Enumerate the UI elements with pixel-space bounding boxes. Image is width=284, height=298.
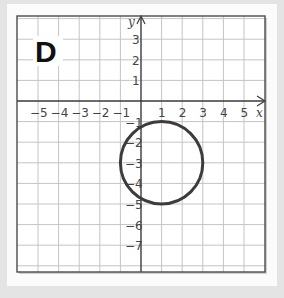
panel-label: D — [35, 35, 57, 68]
coordinate-graph: −5−4−3−2−112345 321−1−2−3−4−5−6−7 y x D — [0, 0, 284, 298]
x-tick-label: 5 — [241, 106, 249, 120]
y-tick-label: 1 — [132, 74, 140, 88]
x-tick-label: −2 — [92, 106, 110, 120]
x-tick-label: −4 — [51, 106, 69, 120]
x-tick-label: 4 — [220, 106, 228, 120]
x-axis-label: x — [256, 106, 263, 120]
y-tick-label: 3 — [132, 33, 140, 47]
y-tick-label: −3 — [125, 157, 143, 171]
y-axis-label: y — [127, 15, 135, 29]
y-tick-label: −7 — [125, 239, 143, 253]
x-tick-label: −5 — [30, 106, 48, 120]
y-tick-label: −6 — [125, 219, 143, 233]
y-tick-label: −5 — [125, 198, 143, 212]
y-tick-label: 2 — [132, 54, 140, 68]
x-tick-label: 2 — [179, 106, 187, 120]
x-tick-label: 3 — [199, 106, 207, 120]
x-tick-label: −3 — [71, 106, 89, 120]
x-tick-label: 1 — [158, 106, 166, 120]
